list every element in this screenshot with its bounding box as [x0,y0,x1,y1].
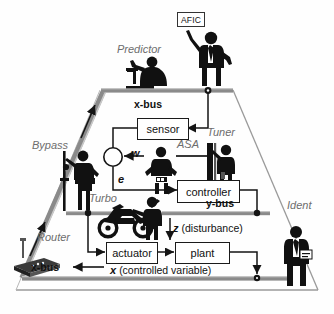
person-at-desk-icon [126,57,167,89]
diagram-canvas: sensor controller actuator plant AFIC Pr… [0,0,334,314]
label-x-bus-bottom: x-bus [31,262,59,273]
label-signal-w: w [131,148,140,159]
label-asa: ASA [177,139,199,150]
person-hands-on-hips-icon [145,147,177,194]
sensor-block-label: sensor [146,123,179,135]
label-signal-z: z [173,222,179,234]
plant-block-label: plant [191,247,215,259]
label-signal-e: e [118,174,124,185]
afic-sign[interactable]: AFIC [177,12,205,27]
label-router: Router [37,232,70,243]
label-controlled-variable: x(controlled variable) [110,261,211,277]
label-signal-z-note: (disturbance) [182,222,243,234]
businessman-icon [284,226,312,286]
sensor-block[interactable]: sensor [137,118,189,140]
actuator-block-label: actuator [112,247,152,259]
label-turbo: Turbo [89,193,117,204]
label-disturbance: z(disturbance) [173,219,243,235]
businessman-holding-sign-icon [186,30,232,86]
label-signal-x-note: (controlled variable) [119,264,211,276]
afic-sign-label: AFIC [181,15,201,25]
label-signal-x: x [110,264,116,276]
label-x-bus-top: x-bus [134,99,162,110]
label-tuner: Tuner [207,127,235,138]
controller-block-label: controller [186,186,231,198]
label-y-bus: y-bus [206,198,234,209]
label-ident: Ident [287,200,311,211]
label-predictor: Predictor [117,44,161,55]
label-bypass: Bypass [32,140,68,151]
